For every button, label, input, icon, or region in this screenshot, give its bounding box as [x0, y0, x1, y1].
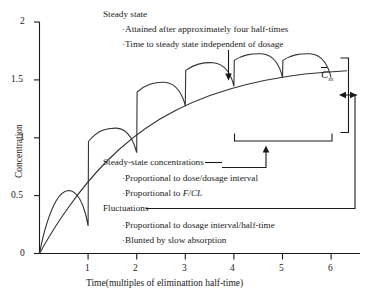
plateau-label-css: Css: [321, 68, 333, 82]
x-tick-6: 6: [328, 264, 333, 274]
annotation-steady-state-bullet-2: ·Time to steady state independent of dos…: [122, 40, 283, 49]
annotation-steady-state-heading: Steady state: [103, 10, 147, 19]
x-tick-2: 2: [133, 264, 138, 274]
x-axis-label: Time(multiples of eliminattion half-time…: [86, 279, 243, 289]
y-tick-0: 0: [20, 249, 25, 259]
axes: [40, 22, 361, 254]
annotation-fluctuations-heading: Fluctuations: [103, 204, 148, 213]
y-axis-label: Concentration: [14, 124, 24, 178]
ssc-leader-arrow: [222, 146, 269, 168]
x-tick-3: 3: [182, 264, 187, 274]
annotation-ssc-heading: Steady-state concentrations: [103, 158, 204, 167]
chart-figure: 2 1.5 1 0.5 0 1 2 3 4 5 6 Concentration …: [0, 0, 366, 299]
annotation-steady-state-bullet-1: ·Attained after approximately four half-…: [122, 25, 288, 34]
annotation-ssc-bullet-2: ·Proportional to F/CL: [122, 189, 202, 198]
x-tick-5: 5: [279, 264, 284, 274]
plateau-label-subscript: ss: [328, 75, 333, 82]
annotation-fluctuations-bullet-2: ·Blunted by slow absorption: [122, 236, 226, 245]
y-tick-2: 2: [20, 17, 25, 27]
y-axis-ticks: [34, 22, 40, 254]
y-tick-1p5: 1.5: [11, 75, 23, 85]
annotation-ssc-bullet-2-text: ·Proportional to: [122, 188, 183, 198]
y-tick-0p5: 0.5: [11, 191, 23, 201]
annotation-ssc-bullet-2-italic: F/CL: [183, 188, 202, 198]
annotation-ssc-bullet-1: ·Proportional to dose/dosage interval: [122, 174, 258, 183]
plateau-label-symbol: C: [321, 68, 328, 80]
x-tick-4: 4: [230, 264, 235, 274]
x-tick-1: 1: [85, 264, 90, 274]
bottom-bracket-fluctuation: [235, 134, 333, 142]
x-axis-ticks: [88, 254, 331, 260]
annotation-fluctuations-bullet-1: ·Proportional to dosage interval/half-ti…: [122, 221, 275, 230]
